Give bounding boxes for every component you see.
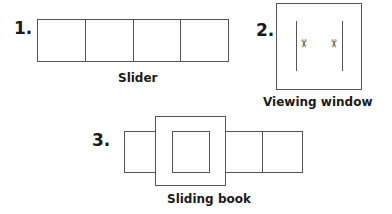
figure-number-1: 1. xyxy=(14,20,32,37)
caption-slider: Slider xyxy=(118,72,158,85)
sliding-book-window xyxy=(172,131,210,173)
slit-right xyxy=(342,21,343,71)
slider-divider xyxy=(133,19,134,62)
viewing-window-frame xyxy=(276,3,362,90)
figure-number-3: 3. xyxy=(92,132,110,149)
scissors-icon: ✂ xyxy=(328,39,339,48)
figure-number-2: 2. xyxy=(256,22,274,39)
caption-viewing-window: Viewing window xyxy=(263,96,373,109)
caption-sliding-book: Sliding book xyxy=(167,193,251,206)
strip-divider xyxy=(262,131,263,173)
slider-divider xyxy=(180,19,181,62)
scissors-icon: ✂ xyxy=(298,39,309,48)
slider-divider xyxy=(85,19,86,62)
